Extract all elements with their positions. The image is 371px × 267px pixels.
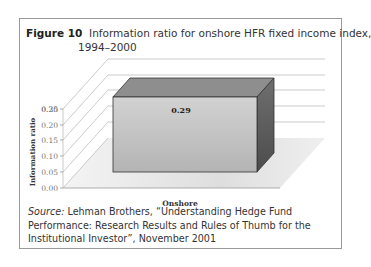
y-axis: 0.00 0.05 0.10 0.15 0.20 0.25 0.30 bbox=[41, 105, 63, 193]
source-note: Source: Lehman Brothers, “Understanding … bbox=[28, 205, 338, 246]
source-label: Source: bbox=[28, 206, 64, 217]
bar-data-label: 0.29 bbox=[171, 105, 191, 115]
y-tick-label: 0.15 bbox=[41, 136, 58, 145]
bar-top-face bbox=[113, 78, 274, 97]
bar-onshore: 0.29 bbox=[113, 78, 274, 172]
y-tick-label: 0.00 bbox=[41, 184, 58, 193]
y-tick-label: 0.10 bbox=[41, 152, 58, 161]
source-text-line2: Performance: Research Results and Rules … bbox=[28, 220, 311, 231]
y-tick-label: 0.20 bbox=[41, 121, 58, 130]
y-tick-label-top: 0.30 bbox=[41, 105, 58, 114]
y-tick-label: 0.05 bbox=[41, 168, 58, 177]
source-text-line1: Lehman Brothers, “Understanding Hedge Fu… bbox=[64, 206, 292, 217]
source-text-line3: Institutional Investor”, November 2001 bbox=[28, 233, 216, 244]
y-axis-title: Information ratio bbox=[28, 117, 37, 186]
